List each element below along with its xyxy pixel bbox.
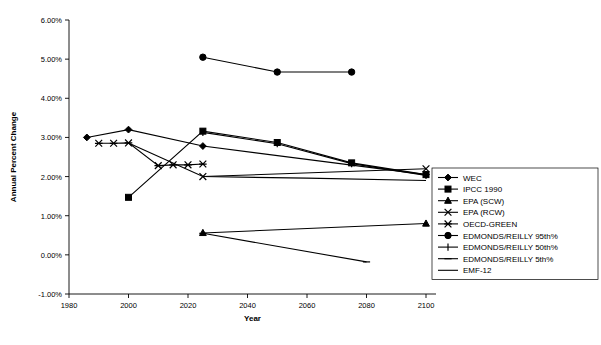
legend-label: EPA (SCW) (463, 197, 505, 206)
data-point-triangle (423, 220, 430, 226)
data-point-circle (445, 232, 451, 238)
series-line (99, 143, 203, 166)
y-tick-label: -1.00% (38, 290, 62, 299)
data-point-square (445, 186, 451, 192)
data-point-asterisk (154, 162, 162, 169)
x-axis-title: Year (244, 314, 261, 323)
data-point-asterisk (184, 161, 192, 168)
y-tick-label: 6.00% (41, 16, 63, 25)
legend: WECIPCC 1990EPA (SCW)EPA (RCW)OECD-GREEN… (432, 168, 598, 279)
series-layer (83, 54, 429, 262)
y-tick-label: 4.00% (41, 94, 63, 103)
series-line (203, 224, 426, 233)
x-tick-label: 2000 (120, 301, 137, 310)
legend-label: IPCC 1990 (463, 185, 503, 194)
legend-label: EDMONDS/REILLY 50th% (463, 243, 558, 252)
legend-label: EMF-12 (463, 266, 492, 275)
y-tick-label: 1.00% (41, 212, 63, 221)
x-tick-label: 2060 (299, 301, 316, 310)
data-point-diamond (199, 143, 206, 150)
x-axis-ticks: 1980200020202040206020802100 (61, 294, 435, 310)
series-7 (199, 233, 370, 262)
y-tick-label: 3.00% (41, 133, 63, 142)
series-4 (95, 140, 207, 170)
series-line (203, 233, 367, 262)
legend-label: WEC (463, 174, 482, 183)
data-point-square (126, 194, 132, 200)
x-tick-label: 2020 (180, 301, 197, 310)
data-point-diamond (83, 134, 90, 141)
series-8 (129, 143, 427, 181)
legend-label: EPA (RCW) (463, 208, 505, 217)
x-tick-label: 1980 (61, 301, 78, 310)
legend-label: OECD-GREEN (463, 220, 517, 229)
x-tick-label: 2100 (418, 301, 435, 310)
axes (69, 20, 436, 294)
series-line (129, 143, 427, 181)
legend-label: EDMONDS/REILLY 5th% (463, 255, 553, 264)
data-point-asterisk (199, 161, 207, 168)
chart-container: -1.00%0.00%1.00%2.00%3.00%4.00%5.00%6.00… (0, 0, 601, 345)
legend-label: EDMONDS/REILLY 95th% (463, 232, 558, 241)
data-point-circle (348, 69, 354, 75)
line-chart: -1.00%0.00%1.00%2.00%3.00%4.00%5.00%6.00… (0, 0, 601, 345)
x-tick-label: 2080 (358, 301, 375, 310)
y-tick-label: 5.00% (41, 55, 63, 64)
y-axis-title: Annual Percent Change (9, 111, 18, 202)
y-tick-label: 2.00% (41, 173, 63, 182)
data-point-diamond (125, 126, 132, 133)
x-tick-label: 2040 (239, 301, 256, 310)
series-2 (199, 220, 429, 236)
data-point-circle (200, 54, 206, 60)
y-tick-label: 0.00% (41, 251, 63, 260)
series-5 (200, 54, 355, 75)
data-point-asterisk (95, 140, 103, 147)
data-point-asterisk (110, 140, 118, 147)
data-point-circle (274, 69, 280, 75)
y-axis-ticks: -1.00%0.00%1.00%2.00%3.00%4.00%5.00%6.00… (38, 16, 69, 299)
